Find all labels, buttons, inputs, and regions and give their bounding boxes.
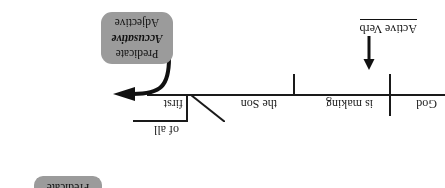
callout-predicate-clipped: Predicate bbox=[34, 176, 102, 188]
active-verb-label: Active Verb bbox=[360, 19, 417, 36]
callout-predicate-accusative-adjective: Predicate Accusative Adjective bbox=[101, 12, 173, 64]
branch-word-of-all: of all bbox=[154, 124, 179, 136]
callout-line-accusative: Accusative bbox=[111, 30, 162, 45]
of-all-branch-arm bbox=[133, 120, 188, 122]
baseline-word-god: God bbox=[416, 98, 437, 110]
callout-line-predicate: Predicate bbox=[116, 46, 159, 61]
active-verb-arrow-icon bbox=[363, 36, 375, 70]
rotated-figure-group: God is making the Son first of all Activ… bbox=[0, 0, 445, 188]
modifier-slant-line bbox=[189, 94, 225, 122]
of-all-branch-stem bbox=[186, 94, 188, 122]
diagram-canvas: God is making the Son first of all Activ… bbox=[0, 0, 445, 188]
active-verb-annotation: Active Verb bbox=[297, 14, 417, 70]
baseline-word-the-son: the Son bbox=[241, 98, 277, 110]
callout-line-predicate-clipped: Predicate bbox=[47, 179, 90, 188]
subject-verb-divider bbox=[389, 74, 391, 116]
verb-object-divider bbox=[293, 74, 295, 96]
callout-line-adjective: Adjective bbox=[115, 15, 160, 30]
baseline-word-is-making: is making bbox=[326, 98, 373, 110]
callout-curved-arrow-icon bbox=[111, 58, 173, 102]
